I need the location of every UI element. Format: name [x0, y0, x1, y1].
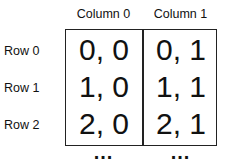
- continuation-dots-0: ...: [65, 141, 142, 164]
- cell-2-0: 2, 0: [66, 106, 142, 142]
- column-header-1: Column 1: [142, 7, 219, 21]
- cell-1-0: 1, 0: [66, 69, 142, 105]
- array-grid: 0, 0 0, 1 1, 0 1, 1 2, 0 2, 1: [65, 29, 217, 146]
- cell-2-1: 2, 1: [143, 106, 219, 142]
- row-label-2: Row 2: [4, 118, 39, 132]
- cell-0-0: 0, 0: [66, 32, 142, 68]
- continuation-dots-1: ...: [142, 141, 219, 164]
- cell-1-1: 1, 1: [143, 69, 219, 105]
- cell-0-1: 0, 1: [143, 32, 219, 68]
- column-header-0: Column 0: [65, 7, 142, 21]
- row-label-1: Row 1: [4, 81, 39, 95]
- row-label-0: Row 0: [4, 44, 39, 58]
